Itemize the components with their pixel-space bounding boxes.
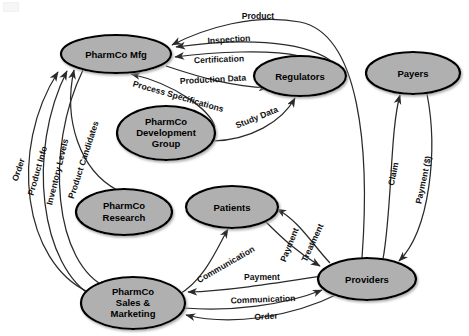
edge-label-communication-sales: Communication: [230, 293, 295, 305]
edge-label-order-left: Order: [10, 156, 27, 182]
edge-label-text: Product Candidates: [66, 119, 101, 200]
node-label: Patients: [214, 202, 251, 213]
diagram-canvas: Product Inspection Certification Product…: [0, 0, 469, 336]
node-label-line-2: Sales &: [116, 297, 150, 308]
edge-label-text: Product: [242, 11, 275, 21]
node-label-line-2: Development: [136, 127, 196, 138]
edge-label-text: Production Data: [180, 73, 247, 86]
node-label-line-3: Marketing: [111, 308, 156, 319]
edge-label-certification: Certification: [194, 53, 244, 65]
node-label: Providers: [345, 274, 389, 285]
node-pharmco-research[interactable]: PharmCo Research: [76, 189, 172, 235]
edge-label-text: Treatment: [299, 222, 325, 264]
node-regulators[interactable]: Regulators: [254, 56, 346, 96]
edge-label-inspection: Inspection: [207, 33, 251, 46]
edge-label-text: Order: [10, 156, 27, 182]
edge-label-product-candidates: Product Candidates: [66, 119, 101, 200]
node-providers[interactable]: Providers: [318, 258, 416, 300]
node-label: Regulators: [275, 71, 325, 82]
node-label: Payers: [397, 68, 428, 79]
edge-label-treatment: Treatment: [299, 222, 325, 264]
node-label-line-1: PharmCo: [145, 116, 187, 127]
edge-label-text: Payment: [244, 272, 280, 282]
edge-label-text: Inspection: [207, 33, 251, 46]
flow-diagram: Product Inspection Certification Product…: [0, 0, 469, 336]
edge-label-text: Order: [254, 311, 279, 322]
edge-label-product: Product: [242, 11, 275, 21]
edge-label-text: Claim: [386, 161, 401, 186]
node-label-line-1: PharmCo: [103, 200, 145, 211]
node-patients[interactable]: Patients: [186, 186, 278, 228]
edge-label-claim: Claim: [386, 161, 401, 186]
node-label-line-1: PharmCo: [112, 286, 154, 297]
edge-label-text: Study Data: [234, 104, 280, 130]
node-pharmco-development-group[interactable]: PharmCo Development Group: [117, 106, 215, 160]
node-payers[interactable]: Payers: [366, 52, 460, 94]
edge-label-payment-patient: Payment: [278, 226, 301, 263]
edge-label-text: Communication: [230, 293, 295, 305]
node-label: PharmCo Mfg: [85, 49, 147, 60]
node-label-line-2: Research: [103, 212, 146, 223]
node-pharmco-mfg[interactable]: PharmCo Mfg: [61, 35, 171, 73]
edge-label-order-bottom: Order: [254, 311, 279, 322]
edge-label-production-data: Production Data: [180, 73, 247, 86]
edge-label-text: Payment: [278, 226, 301, 263]
edge-label-text: Certification: [194, 53, 244, 65]
node-label-line-3: Group: [152, 138, 181, 149]
edge-label-payment-sales: Payment: [244, 272, 280, 282]
node-pharmco-sales-marketing[interactable]: PharmCo Sales & Marketing: [81, 277, 185, 329]
edge-label-study-data: Study Data: [234, 104, 280, 130]
